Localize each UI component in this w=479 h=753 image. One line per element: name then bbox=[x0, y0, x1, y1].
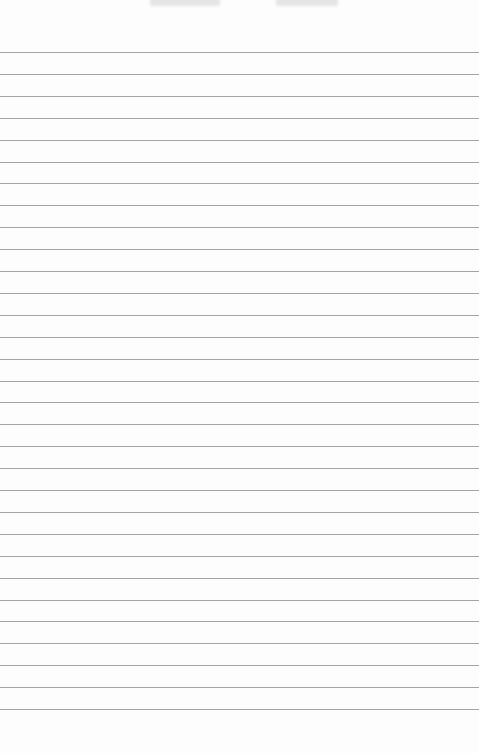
ruled-line bbox=[0, 424, 479, 425]
ruled-line bbox=[0, 183, 479, 184]
ruled-line bbox=[0, 227, 479, 228]
ruled-line bbox=[0, 140, 479, 141]
ruled-line bbox=[0, 96, 479, 97]
ruled-line bbox=[0, 74, 479, 75]
ruled-line bbox=[0, 315, 479, 316]
ruled-line bbox=[0, 556, 479, 557]
ruled-line bbox=[0, 205, 479, 206]
ruled-line bbox=[0, 271, 479, 272]
ruled-line bbox=[0, 600, 479, 601]
ruled-line bbox=[0, 490, 479, 491]
ruled-line bbox=[0, 402, 479, 403]
ruled-line bbox=[0, 337, 479, 338]
ruled-line bbox=[0, 643, 479, 644]
ruled-lines bbox=[0, 0, 479, 753]
ruled-line bbox=[0, 687, 479, 688]
ruled-line bbox=[0, 709, 479, 710]
ruled-line bbox=[0, 118, 479, 119]
ruled-line bbox=[0, 621, 479, 622]
ruled-line bbox=[0, 293, 479, 294]
ruled-line bbox=[0, 534, 479, 535]
ruled-line bbox=[0, 512, 479, 513]
ruled-line bbox=[0, 468, 479, 469]
ruled-line bbox=[0, 359, 479, 360]
ruled-line bbox=[0, 52, 479, 53]
ruled-line bbox=[0, 446, 479, 447]
ruled-line bbox=[0, 665, 479, 666]
ruled-line bbox=[0, 162, 479, 163]
ruled-line bbox=[0, 578, 479, 579]
ruled-line bbox=[0, 381, 479, 382]
ruled-line bbox=[0, 249, 479, 250]
